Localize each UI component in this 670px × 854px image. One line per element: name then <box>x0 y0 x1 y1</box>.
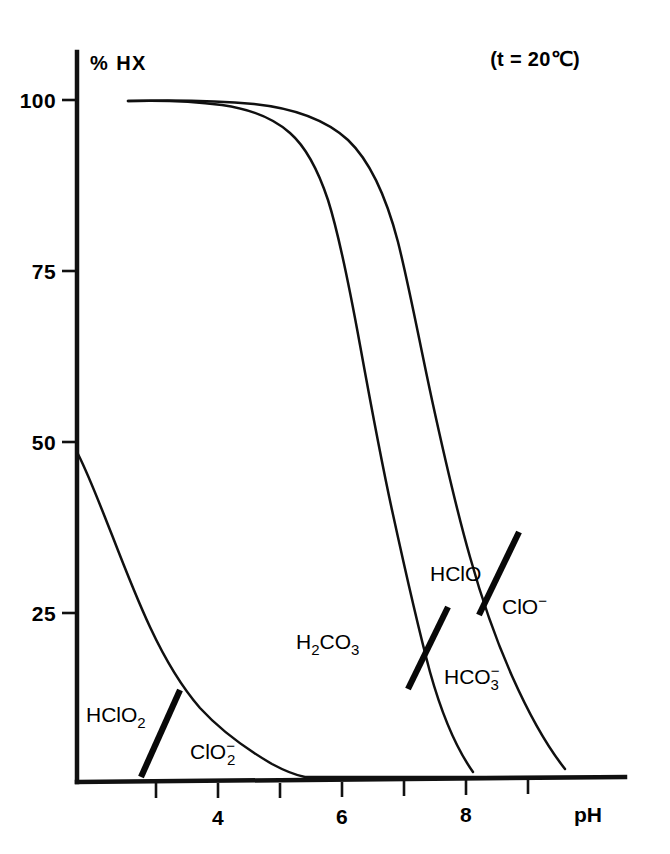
x-tick-label-8: 8 <box>460 803 472 826</box>
y-tick-label-75: 75 <box>32 260 56 283</box>
chart-figure: 100 75 50 25 4 6 8 % HX pH (t = 20℃) <box>0 0 670 854</box>
x-axis-title: pH <box>574 803 602 826</box>
y-axis-title: % HX <box>90 52 147 74</box>
curve-hclo <box>128 100 565 769</box>
curve-h2co3 <box>128 101 473 772</box>
species-label-clo-base: ClO− <box>502 592 547 618</box>
species-label-hclo-acid: HClO <box>430 562 481 585</box>
x-tick-label-4: 4 <box>212 806 224 829</box>
x-tick-label-6: 6 <box>336 805 348 828</box>
species-label-hco3-base: HCO−3 <box>444 662 500 693</box>
y-tick-label-50: 50 <box>32 431 56 454</box>
species-label-h2co3-acid: H2CO3 <box>296 630 359 658</box>
divider-hclo2 <box>141 690 180 777</box>
plot-area: 100 75 50 25 4 6 8 % HX pH (t = 20℃) <box>0 0 670 854</box>
y-tick-label-25: 25 <box>32 602 56 625</box>
species-label-hclo2-acid: HClO2 <box>86 703 146 731</box>
divider-h2co3 <box>408 607 448 689</box>
y-tick-label-100: 100 <box>20 89 56 112</box>
temperature-note: (t = 20℃) <box>490 48 580 70</box>
species-label-clo2-base: ClO−2 <box>190 737 235 768</box>
